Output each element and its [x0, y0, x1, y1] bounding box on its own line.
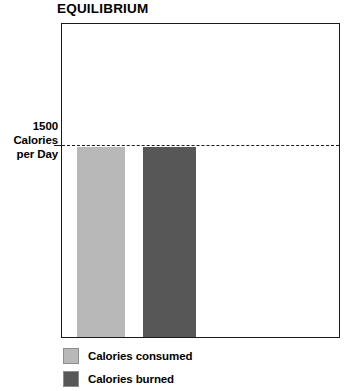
legend-item-calories-consumed: Calories consumed [63, 347, 348, 370]
legend-label-calories-burned: Calories burned [88, 371, 174, 387]
y-axis-label-line-3: per Day [0, 147, 58, 161]
plot-area [62, 24, 339, 337]
y-axis-label-line-2: Calories [0, 133, 58, 147]
bar-calories-burned [143, 147, 196, 337]
bar-calories-consumed [77, 147, 125, 337]
y-axis-label: 1500 Calories per Day [0, 119, 58, 161]
y-axis-label-line-1: 1500 [0, 119, 58, 133]
legend-label-calories-consumed: Calories consumed [88, 348, 192, 364]
threshold-dashed-line [62, 145, 339, 146]
legend-swatch-calories-consumed [63, 348, 79, 364]
legend-swatch-calories-burned [63, 371, 79, 387]
chart-legend: Calories consumed Calories burned [63, 347, 348, 391]
chart-title: EQUILIBRIUM [57, 0, 148, 17]
legend-item-calories-burned: Calories burned [63, 370, 348, 391]
